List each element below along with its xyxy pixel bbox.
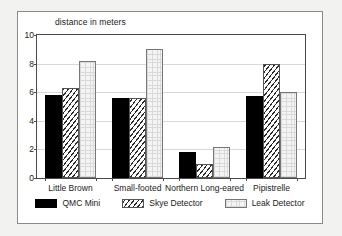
chart-legend: QMC MiniSkye DetectorLeak Detector bbox=[18, 198, 322, 208]
bar bbox=[213, 147, 230, 178]
legend-swatch bbox=[225, 199, 247, 208]
y-axis-tick-label: 0 bbox=[29, 173, 34, 183]
bar bbox=[246, 96, 263, 178]
legend-swatch bbox=[122, 199, 144, 208]
bar bbox=[129, 98, 146, 178]
legend-label: Skye Detector bbox=[149, 198, 202, 208]
x-axis-tick-mark bbox=[297, 178, 298, 181]
x-axis-tick-mark bbox=[163, 178, 164, 181]
category-label: Little Brown bbox=[48, 183, 92, 193]
x-axis-tick-mark bbox=[179, 178, 180, 181]
y-axis-tick-mark bbox=[34, 64, 37, 65]
bar bbox=[263, 64, 280, 178]
category-label: Pipistrelle bbox=[253, 183, 290, 193]
y-axis-tick-mark bbox=[34, 92, 37, 93]
y-axis-tick-label: 8 bbox=[29, 59, 34, 69]
category-label: Northern Long-eared bbox=[165, 183, 244, 193]
legend-label: Leak Detector bbox=[252, 198, 305, 208]
bar bbox=[146, 49, 163, 178]
bar bbox=[196, 164, 213, 178]
x-axis-tick-mark bbox=[45, 178, 46, 181]
plot-area: 0246810Little BrownSmall-footedNorthern … bbox=[36, 34, 306, 179]
y-axis-tick-mark bbox=[34, 149, 37, 150]
legend-entry[interactable]: QMC Mini bbox=[35, 198, 100, 208]
y-axis-tick-mark bbox=[34, 121, 37, 122]
y-axis-tick-label: 2 bbox=[29, 144, 34, 154]
category-label: Small-footed bbox=[114, 183, 162, 193]
y-axis-tick-mark bbox=[34, 35, 37, 36]
y-axis-tick-label: 6 bbox=[29, 87, 34, 97]
bar bbox=[79, 61, 96, 178]
x-axis-tick-mark bbox=[96, 178, 97, 181]
bar bbox=[280, 92, 297, 178]
bar bbox=[45, 95, 62, 178]
bar bbox=[179, 152, 196, 178]
bar bbox=[112, 98, 129, 178]
legend-swatch bbox=[35, 199, 57, 208]
legend-entry[interactable]: Skye Detector bbox=[122, 198, 202, 208]
y-axis-tick-mark bbox=[34, 178, 37, 179]
x-axis-tick-mark bbox=[230, 178, 231, 181]
y-axis-tick-label: 10 bbox=[25, 30, 34, 40]
x-axis-tick-mark bbox=[246, 178, 247, 181]
y-axis-tick-label: 4 bbox=[29, 116, 34, 126]
legend-label: QMC Mini bbox=[62, 198, 100, 208]
chart-title: distance in meters bbox=[55, 17, 126, 27]
x-axis-tick-mark bbox=[112, 178, 113, 181]
legend-entry[interactable]: Leak Detector bbox=[225, 198, 305, 208]
bar bbox=[62, 88, 79, 178]
chart-frame: distance in meters 0246810Little BrownSm… bbox=[17, 11, 323, 224]
